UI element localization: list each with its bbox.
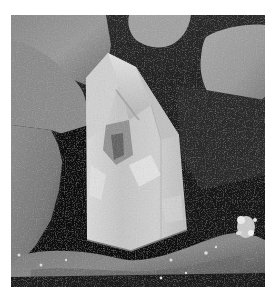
crystal-photo-illustration	[11, 15, 265, 287]
page	[0, 0, 276, 298]
photograph	[11, 15, 265, 287]
